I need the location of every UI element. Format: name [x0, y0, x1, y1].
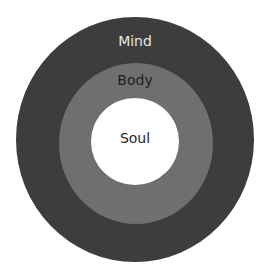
body-label: Body: [75, 72, 195, 88]
soul-label: Soul: [75, 130, 195, 146]
mind-label: Mind: [75, 33, 195, 49]
